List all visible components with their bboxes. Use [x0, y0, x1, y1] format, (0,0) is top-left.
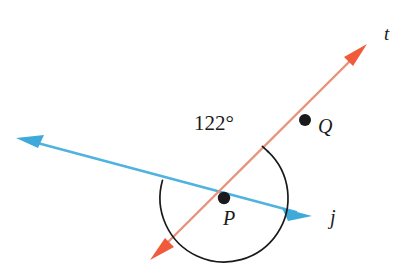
- angle-measure-label: 122°: [194, 111, 234, 135]
- geometry-canvas: 122° P Q j t: [0, 0, 410, 279]
- point-q-label: Q: [318, 115, 333, 137]
- point-q-dot: [299, 114, 311, 126]
- diagram-background: [0, 0, 410, 279]
- geometry-diagram: 122° P Q j t: [0, 0, 410, 279]
- line-t-label: t: [384, 23, 390, 44]
- point-p-dot: [218, 192, 230, 204]
- point-p-label: P: [222, 207, 235, 229]
